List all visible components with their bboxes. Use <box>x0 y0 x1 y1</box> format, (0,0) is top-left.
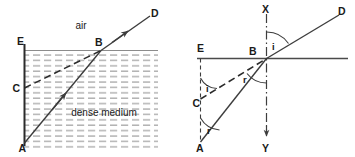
label-C-right: C <box>193 97 201 109</box>
label-air-left: air <box>75 20 87 31</box>
label-C-left: C <box>13 82 21 94</box>
label-X-right: X <box>262 3 269 15</box>
label-D-right: D <box>338 5 346 17</box>
angle-arc-i-at-b <box>267 32 289 44</box>
figure-root: E C A B D air dense medium <box>0 0 355 157</box>
right-diagram-group: X Y E B C A D i r i r <box>193 3 349 154</box>
ray-bd-arrow-left <box>112 31 128 43</box>
label-angle-i-at-b: i <box>272 41 275 52</box>
label-A-right: A <box>196 142 204 154</box>
dashed-ray-c-to-b-right <box>201 59 267 100</box>
label-E-left: E <box>17 35 24 47</box>
dense-medium-hatch-region <box>24 51 158 150</box>
left-diagram-group: E C A B D air dense medium <box>13 7 160 154</box>
label-angle-r-at-a: r <box>207 125 211 136</box>
label-E-right: E <box>197 42 204 54</box>
label-dense-medium-left: dense medium <box>71 107 137 118</box>
refraction-diagram-svg: E C A B D air dense medium <box>0 0 355 157</box>
angle-arc-r-at-b <box>247 74 267 84</box>
label-angle-r-at-b: r <box>243 74 247 85</box>
label-A-left: A <box>19 142 27 154</box>
label-angle-i-at-c: i <box>206 83 209 94</box>
label-D-left: D <box>151 7 159 19</box>
label-B-right: B <box>249 45 257 57</box>
label-Y-right: Y <box>262 142 269 154</box>
label-B-left: B <box>95 36 103 48</box>
ray-b-to-d-right <box>267 15 340 59</box>
angle-arc-i-at-c <box>201 78 218 89</box>
